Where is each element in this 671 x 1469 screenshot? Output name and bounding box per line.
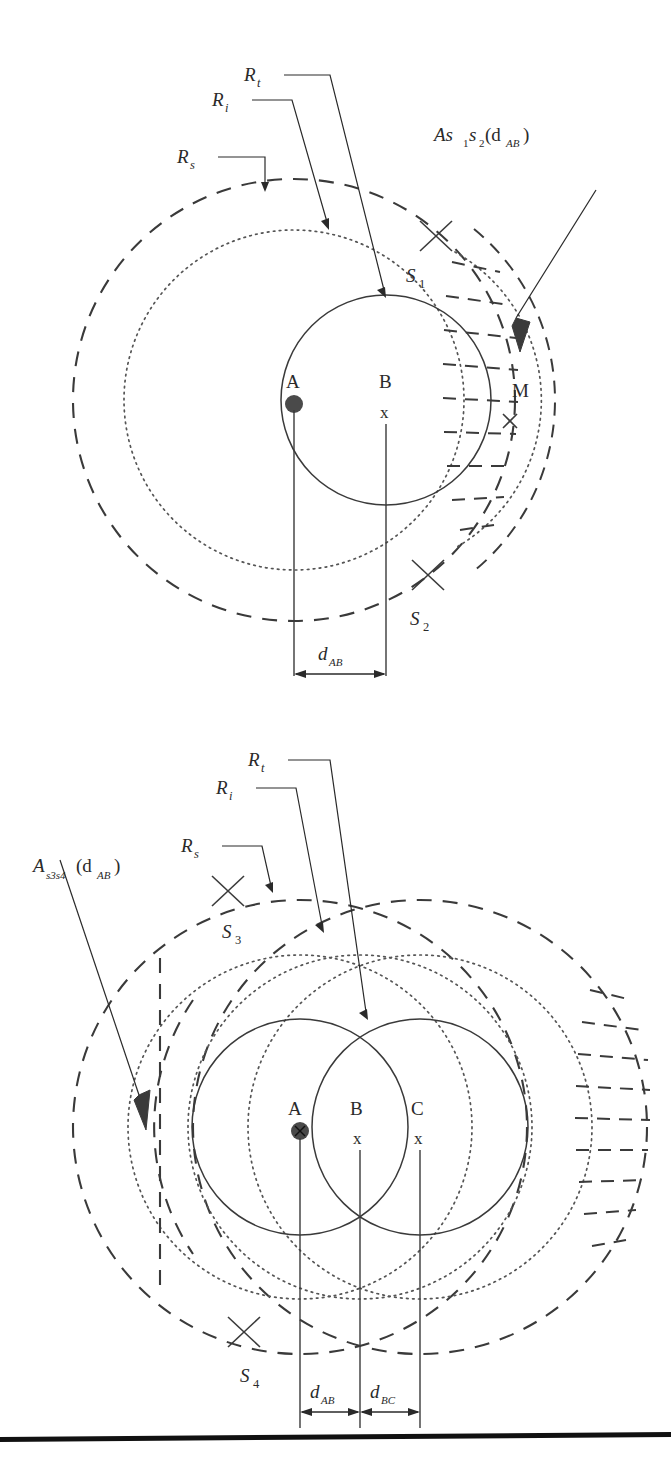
point-label-c-bottom: C — [411, 1098, 424, 1119]
sensor-marker-s1 — [420, 221, 452, 251]
label-area-bottom: A s3s4 (d AB ) — [31, 855, 120, 881]
label-rt-bottom-sub: t — [261, 761, 265, 775]
label-area-bottom-argopen: (d — [76, 855, 92, 877]
dimension-dbc-bottom: d BC — [360, 1381, 420, 1416]
label-area-top-argclose: ) — [523, 124, 529, 146]
label-rt-top: R — [243, 64, 256, 85]
point-label-a-bottom: A — [288, 1098, 302, 1119]
caption-fragment-clip — [0, 1460, 671, 1469]
leader-rs-top — [218, 157, 269, 192]
point-label-m: M — [512, 380, 529, 401]
label-ri-top: R — [211, 89, 224, 110]
leader-ri-bottom — [256, 788, 324, 933]
diagram-top-panel: M S 1 S 2 R s R i — [0, 0, 671, 710]
sensor-label-s4: S — [240, 1365, 250, 1386]
label-rs-top: R — [176, 146, 189, 167]
leader-rs-bottom — [222, 846, 273, 893]
label-area-top-main: As — [432, 124, 453, 145]
label-rs-bottom: R — [180, 835, 193, 856]
dimension-label-dbc-bottom-sub: BC — [381, 1394, 396, 1406]
label-area-bottom-argclose: ) — [114, 855, 120, 877]
sensor-marker-s3 — [212, 876, 244, 906]
label-ri-top-sub: i — [225, 101, 229, 115]
point-label-a-top: A — [286, 371, 300, 392]
hatched-region-left-bottom — [60, 860, 193, 1295]
label-area-top-argsub: AB — [505, 137, 520, 149]
sensor-label-s4-sub: 4 — [253, 1377, 260, 1391]
label-ri-bottom-sub: i — [229, 789, 233, 803]
rule-line — [0, 1432, 671, 1442]
label-area-top-sub1: 1 — [463, 137, 469, 149]
point-marker-b-top: x — [380, 403, 389, 422]
leader-ri-top — [252, 100, 329, 230]
dimension-dab-top: d AB — [294, 643, 386, 678]
sensor-marker-s2 — [412, 560, 444, 590]
label-area-top-argopen: (d — [485, 124, 501, 146]
sensor-marker-s4 — [228, 1317, 260, 1347]
point-marker-c-bottom: x — [414, 1129, 423, 1148]
hatched-region-right-bottom — [575, 990, 650, 1246]
dimension-label-dab-top-sub: AB — [328, 656, 343, 668]
point-marker-m — [503, 414, 517, 428]
sensor-label-s2: S — [410, 608, 420, 629]
dimension-label-dbc-bottom: d — [370, 1381, 380, 1402]
sensor-label-s1: S — [406, 265, 416, 286]
dimension-dab-bottom: d AB — [300, 1381, 360, 1416]
arrowhead-area-top — [512, 318, 530, 352]
figure-page: M S 1 S 2 R s R i — [0, 0, 671, 1469]
sensor-label-s3-sub: 3 — [235, 933, 241, 947]
dimension-label-dab-bottom-sub: AB — [320, 1394, 335, 1406]
label-area-top-mid: s — [469, 124, 476, 145]
sensor-label-s2-sub: 2 — [423, 620, 429, 634]
leader-rt-top — [284, 75, 386, 298]
sensor-label-s1-sub: 1 — [419, 277, 425, 291]
dimension-label-dab-bottom: d — [310, 1381, 320, 1402]
label-rs-top-sub: s — [190, 158, 195, 172]
label-ri-bottom: R — [215, 777, 228, 798]
label-rt-bottom: R — [247, 749, 260, 770]
label-area-bottom-main: A — [31, 855, 45, 876]
label-rs-bottom-sub: s — [194, 847, 199, 861]
point-label-b-top: B — [379, 371, 392, 392]
label-area-bottom-sub: s3s4 — [46, 869, 66, 881]
arrowhead-area-bottom — [134, 1090, 150, 1130]
label-area-top: As 1 s 2 (d AB ) — [432, 124, 529, 149]
point-marker-b-bottom: x — [353, 1129, 362, 1148]
label-area-top-sub2: 2 — [479, 137, 485, 149]
sensor-label-s3: S — [222, 921, 232, 942]
diagram-bottom-panel: A s3s4 (d AB ) S 3 S 4 R s — [0, 700, 671, 1460]
point-label-b-bottom: B — [350, 1098, 363, 1119]
label-rt-top-sub: t — [257, 76, 261, 90]
label-area-bottom-argsub: AB — [96, 869, 111, 881]
dimension-label-dab-top: d — [318, 643, 328, 664]
